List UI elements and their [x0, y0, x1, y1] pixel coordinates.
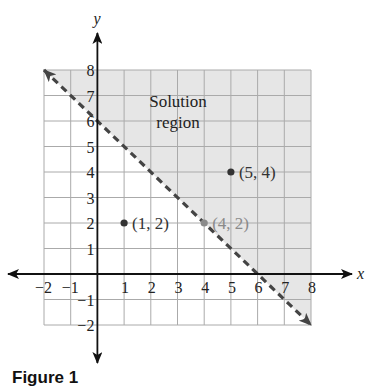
x-tick-label: 4: [201, 279, 209, 296]
y-tick-label: 8: [86, 62, 94, 79]
y-axis-label: y: [91, 10, 101, 28]
figure-caption: Figure 1: [12, 368, 78, 388]
y-tick-label: 7: [86, 88, 94, 105]
x-tick-label: 2: [148, 279, 156, 296]
y-tick-label: 1: [86, 241, 94, 258]
y-tick-label: 2: [86, 215, 94, 232]
y-tick-label: 3: [86, 190, 94, 207]
x-tick-label: 5: [228, 279, 236, 296]
x-tick-label: −1: [62, 279, 79, 296]
x-tick-label: −2: [35, 279, 52, 296]
y-tick-label: −2: [77, 317, 94, 334]
x-tick-label: 8: [308, 279, 316, 296]
data-point-label: (5, 4): [239, 163, 276, 182]
data-point: [121, 219, 128, 226]
solution-label-line-2: region: [156, 113, 200, 132]
data-point: [227, 168, 234, 175]
data-point-label: (4, 2): [212, 214, 249, 233]
y-tick-label: −1: [77, 292, 94, 309]
y-tick-label: 4: [86, 164, 94, 181]
x-tick-label: 1: [121, 279, 129, 296]
y-tick-label: 6: [86, 113, 94, 130]
data-point-label: (1, 2): [132, 214, 169, 233]
solution-label-line-1: Solution: [149, 92, 207, 111]
x-tick-label: 3: [175, 279, 183, 296]
data-point: [201, 219, 208, 226]
x-tick-label: 6: [255, 279, 263, 296]
x-axis-label: x: [356, 265, 364, 282]
x-tick-label: 7: [281, 279, 289, 296]
y-tick-label: 5: [86, 139, 94, 156]
